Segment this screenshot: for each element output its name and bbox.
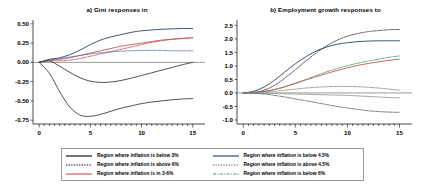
y-axis-tick-label: 1.0 (225, 62, 234, 69)
legend: Region where inflation is below 3%Region… (61, 148, 364, 181)
series-line (39, 62, 193, 116)
x-axis-tick-label: 10 (138, 129, 145, 136)
y-axis-tick-label: 2.5 (225, 22, 234, 29)
y-axis-tick-label: 0.00 (17, 58, 29, 65)
figure-root: a) Gini responses in 0.500.250.00-0.25-0… (0, 0, 425, 188)
y-axis-tick-label: -0.5 (222, 103, 233, 110)
y-axis-tick-label: -0.25 (15, 78, 30, 85)
legend-item[interactable]: Region where inflation is above 6% (66, 161, 213, 169)
y-axis-tick-label: 2.0 (225, 35, 234, 42)
legend-item-label: Region where inflation is above 6% (97, 162, 179, 168)
y-axis-tick-label: 0.0 (225, 89, 234, 96)
legend-line-swatch-icon (213, 153, 239, 159)
y-axis-tick-label: 0.25 (17, 39, 29, 46)
legend-item-label: Region where inflation is in 3-6% (97, 171, 173, 177)
legend-item[interactable]: Region where inflation is below 3% (66, 152, 213, 160)
legend-line-swatch-icon (66, 162, 92, 168)
legend-line-swatch-icon (213, 171, 239, 177)
series-line (243, 56, 399, 93)
x-axis-tick-label: 15 (396, 129, 403, 136)
series-line (39, 61, 193, 83)
series-line (243, 41, 399, 93)
x-axis-tick-label: 0 (37, 129, 41, 136)
legend-column-right: Region where inflation is below 4.5%Regi… (213, 152, 360, 178)
y-axis-tick-label: 1.5 (225, 49, 234, 56)
legend-item-label: Region where inflation is above 4.5% (244, 162, 330, 168)
legend-line-swatch-icon (66, 153, 92, 159)
y-axis-tick-label: 0.50 (17, 20, 29, 27)
panel-b-plot: 2.52.01.51.00.50.0-0.5-1.0051015 (212, 0, 425, 145)
series-line (243, 86, 399, 93)
x-axis-tick-label: 5 (294, 129, 298, 136)
series-line (39, 38, 193, 63)
panel-a-plot: 0.500.250.00-0.25-0.50-0.75051015 (0, 0, 212, 145)
legend-item-label: Region where inflation is below 6% (244, 171, 326, 177)
y-axis-tick-label: -0.50 (15, 97, 30, 104)
legend-line-swatch-icon (213, 162, 239, 168)
y-axis-tick-label: -1.0 (222, 116, 233, 123)
legend-item[interactable]: Region where inflation is in 3-6% (66, 170, 213, 178)
legend-item[interactable]: Region where inflation is above 4.5% (213, 161, 360, 169)
series-line (243, 93, 399, 112)
legend-item[interactable]: Region where inflation is below 6% (213, 170, 360, 178)
x-axis-tick-label: 0 (242, 129, 246, 136)
legend-line-swatch-icon (66, 171, 92, 177)
legend-column-left: Region where inflation is below 3%Region… (66, 152, 213, 178)
legend-item-label: Region where inflation is below 4.5% (244, 153, 330, 159)
y-axis-tick-label: -0.75 (15, 116, 30, 123)
legend-item[interactable]: Region where inflation is below 4.5% (213, 152, 360, 160)
series-line (243, 29, 399, 92)
x-axis-tick-label: 5 (89, 129, 93, 136)
panel-employment: b) Employment growth responses to 2.52.0… (212, 0, 425, 145)
legend-item-label: Region where inflation is below 3% (97, 153, 179, 159)
series-line (243, 93, 399, 98)
y-axis-tick-label: 0.5 (225, 76, 234, 83)
series-line (39, 28, 193, 62)
x-axis-tick-label: 10 (344, 129, 351, 136)
panel-gini: a) Gini responses in 0.500.250.00-0.25-0… (0, 0, 212, 145)
x-axis-tick-label: 15 (189, 129, 196, 136)
